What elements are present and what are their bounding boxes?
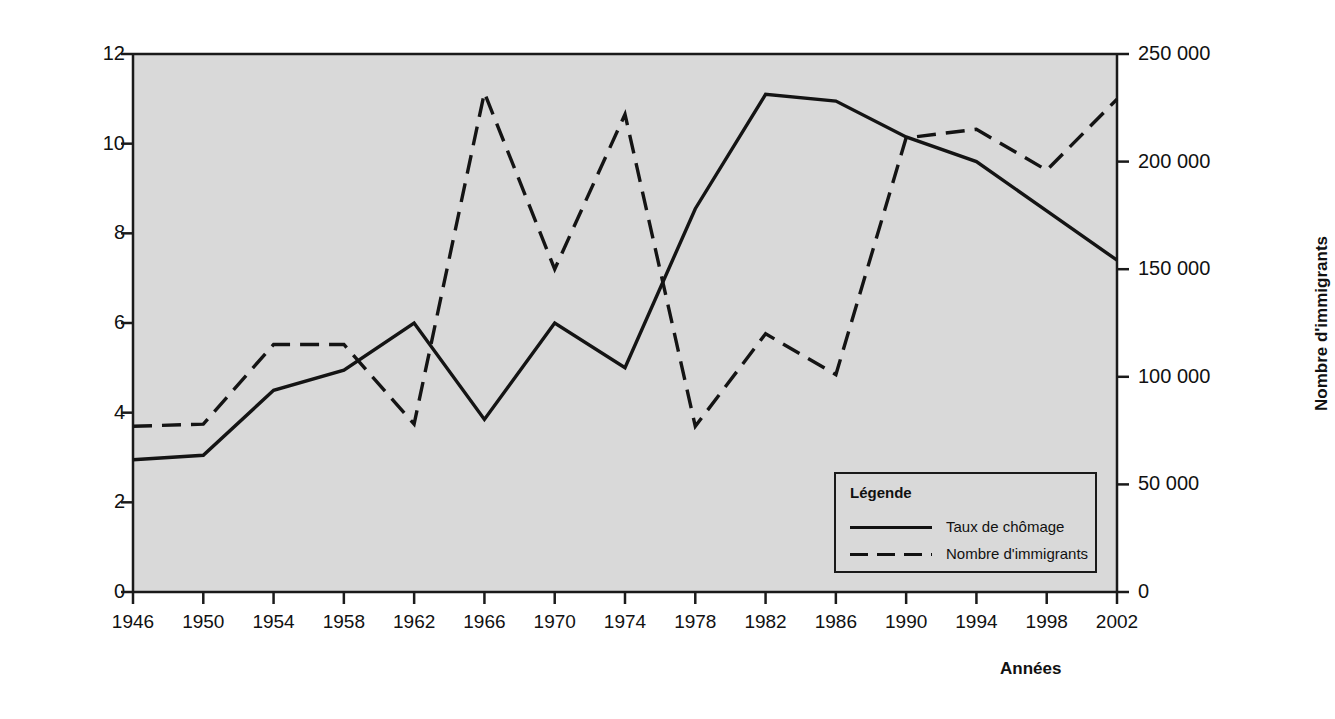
y-axis-right-title: Nombre d'immigrants [1305,55,1335,592]
legend-dashed-line-icon [850,547,932,561]
legend-entry-label: Taux de chômage [946,518,1064,535]
legend-entry-taux-de-chomage: Taux de chômage [850,513,1095,540]
legend-title: Légende [850,484,1095,501]
legend-box: Légende Taux de chômage Nombre d'immigra… [834,472,1097,573]
legend-solid-line-icon [850,520,932,534]
legend-entry-nombre-immigrants: Nombre d'immigrants [850,540,1095,567]
legend-entry-label: Nombre d'immigrants [946,545,1088,562]
y-axis-right-title-text: Nombre d'immigrants [1312,236,1332,411]
